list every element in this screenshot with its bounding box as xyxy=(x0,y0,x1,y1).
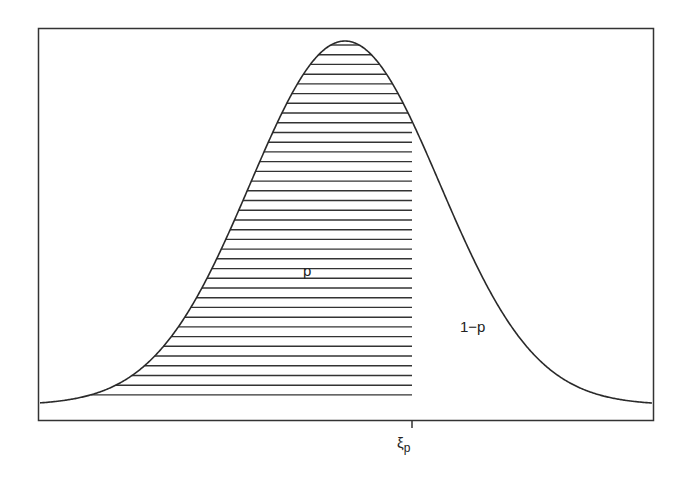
label-one-minus-p: 1−p xyxy=(460,318,485,335)
plot-frame xyxy=(39,29,654,421)
tick-label-xi-p: ξp xyxy=(397,434,411,455)
hatched-region-p xyxy=(91,45,412,395)
density-curve xyxy=(40,41,652,403)
density-plot: p 1−p ξp xyxy=(0,0,687,486)
label-p: p xyxy=(303,262,311,279)
